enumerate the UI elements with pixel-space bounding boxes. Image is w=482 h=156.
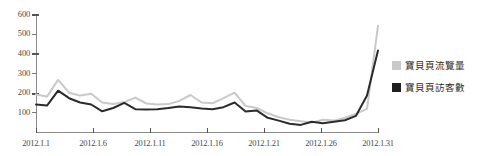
x-tick-2012.1.21 [264, 128, 265, 133]
y-label-200: 200 [6, 88, 30, 97]
x-label-2012.1.31: 2012.1.31 [358, 139, 398, 148]
x-tick-2012.1.26 [321, 128, 322, 133]
y-label-400: 400 [6, 49, 30, 58]
legend-swatch-page-views [392, 61, 401, 70]
x-label-2012.1.21: 2012.1.21 [244, 139, 284, 148]
x-label-2012.1.26: 2012.1.26 [301, 139, 341, 148]
y-tick-200 [32, 93, 39, 95]
x-label-2012.1.16: 2012.1.16 [187, 139, 227, 148]
y-label-600: 600 [6, 10, 30, 19]
x-tick-2012.1.1 [36, 128, 37, 133]
y-tick-100 [32, 112, 37, 113]
x-tick-2012.1.11 [150, 128, 151, 133]
legend-item-visitors: 寶貝頁訪客數 [392, 82, 482, 93]
y-tick-400 [32, 53, 39, 55]
y-tick-600 [32, 14, 39, 16]
x-tick-2012.1.6 [93, 128, 94, 133]
y-label-100: 100 [6, 108, 30, 117]
y-label-300: 300 [6, 69, 30, 78]
y-tick-500 [32, 34, 37, 35]
y-label-500: 500 [6, 29, 30, 38]
series-line-visitors [36, 50, 378, 125]
line-chart: 100200300400500600 2012.1.12012.1.62012.… [0, 0, 482, 156]
legend-item-page-views: 寶貝頁流覽量 [392, 60, 482, 71]
x-label-2012.1.6: 2012.1.6 [73, 139, 113, 148]
legend-label-page-views: 寶貝頁流覽量 [405, 60, 465, 71]
legend-swatch-visitors [392, 83, 401, 92]
x-label-2012.1.11: 2012.1.11 [130, 139, 170, 148]
series-line-page-views [36, 26, 378, 123]
x-tick-2012.1.31 [378, 128, 379, 133]
legend-label-visitors: 寶貝頁訪客數 [405, 82, 465, 93]
x-label-2012.1.1: 2012.1.1 [16, 139, 56, 148]
x-tick-2012.1.16 [207, 128, 208, 133]
y-tick-300 [32, 73, 37, 74]
chart-legend: 寶貝頁流覽量 寶貝頁訪客數 [392, 60, 482, 104]
